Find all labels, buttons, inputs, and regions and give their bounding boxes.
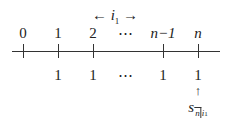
accumulated-value-label: sni1	[188, 100, 207, 118]
time-label-2: 2	[89, 26, 97, 41]
payment-ellipsis: ⋯	[118, 68, 133, 83]
payment-n-minus-1: 1	[159, 68, 167, 83]
time-label-n-minus-1: n−1	[150, 26, 175, 41]
payment-1: 1	[54, 68, 62, 83]
right-arrow-icon: →	[123, 7, 138, 23]
s-symbol: s	[188, 99, 194, 115]
tick-n-minus-1	[163, 44, 164, 58]
tick-2	[93, 44, 94, 58]
tick-0	[23, 44, 24, 58]
payment-2: 1	[89, 68, 97, 83]
rate-index: 1	[204, 110, 208, 118]
time-label-n: n	[194, 26, 202, 41]
tick-n	[198, 44, 199, 58]
time-label-ellipsis: ⋯	[118, 26, 133, 41]
tick-1	[58, 44, 59, 58]
time-label-0: 0	[19, 26, 27, 41]
rate-label: ← i1 →	[92, 8, 138, 26]
time-label-1: 1	[54, 26, 62, 41]
timeline-axis	[12, 51, 220, 52]
up-arrow-icon: ↑	[195, 84, 202, 97]
payment-n: 1	[194, 68, 202, 83]
left-arrow-icon: ←	[92, 7, 107, 23]
